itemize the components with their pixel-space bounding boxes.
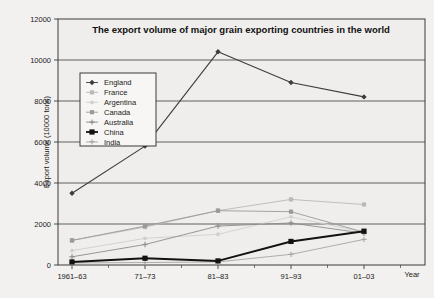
y-tick-label: 0 bbox=[47, 261, 51, 270]
x-tick-label: 1961–63 bbox=[57, 272, 86, 281]
data-point bbox=[362, 202, 366, 206]
data-point bbox=[143, 224, 147, 228]
data-point bbox=[289, 215, 293, 219]
data-point bbox=[143, 236, 147, 240]
x-tick-label: 01–03 bbox=[354, 272, 375, 281]
x-tick-label: 71–73 bbox=[135, 272, 156, 281]
legend-item-label: Argentina bbox=[104, 98, 137, 107]
x-tick-label: 91–93 bbox=[281, 272, 302, 281]
chart-title: The export volume of major grain exporti… bbox=[92, 24, 390, 35]
data-point bbox=[361, 229, 366, 234]
legend-item-label: China bbox=[104, 128, 124, 137]
data-point bbox=[289, 210, 293, 214]
data-point bbox=[216, 232, 220, 236]
legend-item-label: India bbox=[104, 138, 121, 147]
grain-export-line-chart: 020004000600080001000012000 1961–6371–73… bbox=[0, 0, 434, 298]
chart-container: 020004000600080001000012000 1961–6371–73… bbox=[0, 0, 434, 298]
data-point bbox=[288, 239, 293, 244]
legend-item-label: France bbox=[104, 88, 127, 97]
data-point bbox=[70, 238, 74, 242]
legend-swatch-marker bbox=[90, 90, 94, 94]
y-tick-label: 12000 bbox=[30, 15, 51, 24]
y-tick-label: 10000 bbox=[30, 56, 51, 65]
legend-swatch-marker bbox=[90, 110, 94, 114]
data-point bbox=[69, 259, 74, 264]
x-tick-label: 81–83 bbox=[208, 272, 229, 281]
legend-item-label: Australia bbox=[104, 118, 134, 127]
y-tick-label: 2000 bbox=[34, 220, 51, 229]
legend-item-label: Canada bbox=[104, 108, 131, 117]
legend-swatch-marker bbox=[89, 129, 94, 134]
data-point bbox=[289, 197, 293, 201]
legend[interactable]: EnglandFranceArgentinaCanadaAustraliaChi… bbox=[80, 73, 156, 147]
y-axis-label: Export volume (10000 tons) bbox=[42, 95, 51, 188]
data-point bbox=[215, 258, 220, 263]
data-point bbox=[142, 256, 147, 261]
legend-swatch-marker bbox=[90, 100, 94, 104]
x-axis-label: Year bbox=[404, 270, 420, 279]
data-point bbox=[216, 209, 220, 213]
legend-item-label: England bbox=[104, 78, 132, 87]
data-point bbox=[70, 249, 74, 253]
